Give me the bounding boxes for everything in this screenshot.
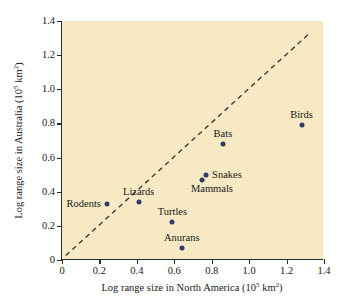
y-axis-tick-label: 1.0 bbox=[42, 84, 55, 95]
y-axis-tick-label: 0.2 bbox=[42, 221, 55, 232]
x-axis-tick bbox=[249, 259, 250, 264]
data-point[interactable] bbox=[104, 201, 109, 206]
data-point-label: Anurans bbox=[164, 233, 200, 244]
y-axis-tick-label: 0 bbox=[50, 255, 55, 266]
x-axis-tick-label: 1.2 bbox=[280, 266, 293, 277]
y-axis-tick bbox=[57, 21, 62, 22]
data-point[interactable] bbox=[204, 172, 209, 177]
y-axis-tick bbox=[57, 89, 62, 90]
data-point[interactable] bbox=[136, 199, 141, 204]
x-axis-tick bbox=[62, 259, 63, 264]
y-axis-tick bbox=[57, 123, 62, 124]
x-axis-tick-label: 0.4 bbox=[130, 266, 143, 277]
y-axis-tick bbox=[57, 158, 62, 159]
y-axis-tick-label: 0.8 bbox=[42, 118, 55, 129]
y-axis-tick bbox=[57, 55, 62, 56]
y-axis-tick-label: 1.4 bbox=[42, 16, 55, 27]
scatter-plot-figure: 00.20.40.60.81.01.21.400.20.40.60.81.01.… bbox=[0, 0, 342, 306]
y-axis-tick-label: 1.2 bbox=[42, 50, 55, 61]
x-axis-title: Log range size in North America (105 km2… bbox=[61, 283, 323, 294]
y-axis-tick bbox=[57, 192, 62, 193]
y-axis-tick-label: 0.6 bbox=[42, 152, 55, 163]
data-point-label: Turtles bbox=[158, 207, 187, 218]
data-point[interactable] bbox=[220, 141, 225, 146]
data-point[interactable] bbox=[200, 177, 205, 182]
x-axis-tick-label: 0.6 bbox=[168, 266, 181, 277]
x-axis-tick bbox=[174, 259, 175, 264]
data-point-label: Lizards bbox=[123, 186, 155, 197]
data-point-label: Birds bbox=[290, 110, 313, 121]
x-axis-tick bbox=[99, 259, 100, 264]
y-axis-tick bbox=[57, 226, 62, 227]
x-axis-tick bbox=[287, 259, 288, 264]
x-axis-tick-label: 1.4 bbox=[317, 266, 330, 277]
y-axis-title: Log range size in Australia (105 km2) bbox=[14, 21, 28, 260]
data-point-label: Rodents bbox=[66, 198, 100, 209]
plot-area: 00.20.40.60.81.01.21.400.20.40.60.81.01.… bbox=[61, 21, 323, 260]
one-to-one-reference-line bbox=[62, 21, 323, 259]
data-point[interactable] bbox=[299, 123, 304, 128]
data-point[interactable] bbox=[179, 246, 184, 251]
x-axis-tick-label: 0.2 bbox=[93, 266, 106, 277]
x-axis-tick bbox=[137, 259, 138, 264]
x-axis-tick-label: 0 bbox=[59, 266, 64, 277]
y-axis-tick-label: 0.4 bbox=[42, 186, 55, 197]
x-axis-tick-label: 0.8 bbox=[205, 266, 218, 277]
x-axis-tick-label: 1.0 bbox=[243, 266, 256, 277]
data-point-label: Mammals bbox=[191, 184, 233, 195]
x-axis-tick bbox=[212, 259, 213, 264]
data-point[interactable] bbox=[170, 220, 175, 225]
data-point-label: Bats bbox=[214, 128, 233, 139]
data-point-label: Snakes bbox=[212, 169, 242, 180]
x-axis-tick bbox=[324, 259, 325, 264]
